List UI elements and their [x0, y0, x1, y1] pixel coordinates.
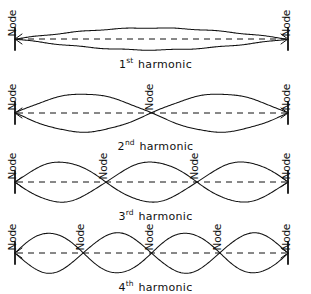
node-tick-3-right-1 [281, 182, 288, 187]
node-tick-4-right-1 [281, 253, 288, 258]
node-label: Node [7, 10, 18, 37]
node-label: Node [97, 153, 108, 180]
node-tick-3-left-1 [15, 182, 22, 187]
node-label: Node [281, 84, 292, 111]
node-label: Node [75, 224, 86, 251]
harmonic-word: harmonic [139, 281, 193, 294]
node-label: Node [281, 153, 292, 180]
node-label: Node [281, 224, 292, 251]
node-label: Node [7, 224, 18, 251]
harmonic-ordinal-suffix: rd [126, 208, 134, 217]
node-label: Node [143, 84, 154, 111]
harmonic-ordinal-suffix: st [126, 56, 133, 65]
harmonic-row-1 [15, 28, 288, 50]
harmonic-caption-4: 4thharmonic [0, 280, 311, 293]
node-label: Node [143, 224, 154, 251]
harmonic-caption-2: 2ndharmonic [0, 139, 311, 152]
harmonic-ordinal-suffix: th [126, 279, 134, 288]
harmonic-number: 3 [119, 210, 126, 223]
harmonic-word: harmonic [139, 210, 193, 223]
harmonic-row-3 [15, 162, 288, 202]
envelope-curve-1-lower [15, 39, 288, 50]
node-label: Node [281, 10, 292, 37]
node-label: Node [7, 153, 18, 180]
harmonic-number: 2 [118, 140, 125, 153]
node-label: Node [211, 224, 222, 251]
node-tick-4-left-1 [15, 253, 22, 258]
harmonic-caption-1: 1stharmonic [0, 57, 311, 70]
harmonic-number: 4 [119, 281, 126, 294]
node-label: Node [7, 84, 18, 111]
harmonic-word: harmonic [138, 58, 192, 71]
envelope-curve-1-upper [15, 28, 288, 39]
node-label: Node [189, 153, 200, 180]
harmonic-ordinal-suffix: nd [125, 138, 135, 147]
harmonic-word: harmonic [139, 140, 193, 153]
harmonic-caption-3: 3rdharmonic [0, 209, 311, 222]
